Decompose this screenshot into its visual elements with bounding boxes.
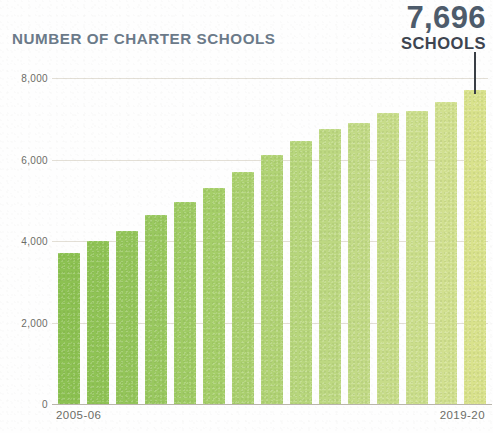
infographic-root: NUMBER OF CHARTER SCHOOLS 7,696 SCHOOLS … xyxy=(0,0,493,433)
x-axis-first-label: 2005-06 xyxy=(56,409,101,421)
page-title: NUMBER OF CHARTER SCHOOLS xyxy=(12,30,276,47)
bar-texture xyxy=(145,215,167,404)
bar-2018-19 xyxy=(435,102,457,404)
bar-2013-14 xyxy=(290,141,312,404)
bar-texture xyxy=(116,231,138,404)
gridline xyxy=(52,78,488,79)
bar-2016-17 xyxy=(377,113,399,404)
bar-2014-15 xyxy=(319,129,341,404)
bar-2007-08 xyxy=(116,231,138,404)
bar-texture xyxy=(435,102,457,404)
bar-texture xyxy=(290,141,312,404)
callout-value: 7,696 xyxy=(401,2,486,34)
bar-texture xyxy=(58,253,80,404)
bar-2006-07 xyxy=(87,241,109,404)
y-axis-tick-label: 8,000 xyxy=(8,73,48,84)
bar-texture xyxy=(232,172,254,404)
bar-texture xyxy=(406,111,428,404)
y-axis-tick-label: 4,000 xyxy=(8,236,48,247)
bar-texture xyxy=(261,155,283,404)
bar-2005-06 xyxy=(58,253,80,404)
bar-2008-09 xyxy=(145,215,167,404)
bar-2010-11 xyxy=(203,188,225,404)
bar-texture xyxy=(87,241,109,404)
bar-texture xyxy=(203,188,225,404)
bar-2011-12 xyxy=(232,172,254,404)
plot-area xyxy=(52,78,488,404)
bar-texture xyxy=(319,129,341,404)
y-axis-tick-label: 0 xyxy=(8,399,48,410)
callout-unit-label: SCHOOLS xyxy=(401,35,486,52)
callout-pointer-line xyxy=(474,52,475,94)
bar-2019-20 xyxy=(464,90,486,404)
bar-2009-10 xyxy=(174,202,196,404)
x-axis-line xyxy=(52,404,492,405)
bar-texture xyxy=(174,202,196,404)
bar-2015-16 xyxy=(348,123,370,404)
y-axis-tick-label: 6,000 xyxy=(8,154,48,165)
bar-texture xyxy=(464,90,486,404)
bar-2012-13 xyxy=(261,155,283,404)
x-axis-last-label: 2019-20 xyxy=(440,409,485,421)
bar-2017-18 xyxy=(406,111,428,404)
bar-texture xyxy=(377,113,399,404)
bar-texture xyxy=(348,123,370,404)
callout-stat: 7,696 SCHOOLS xyxy=(401,2,486,51)
y-axis-tick-label: 2,000 xyxy=(8,317,48,328)
